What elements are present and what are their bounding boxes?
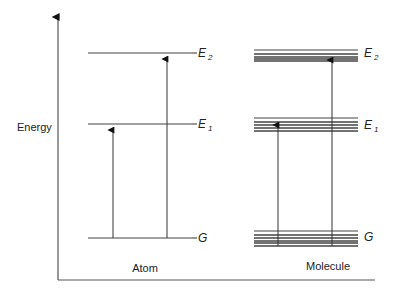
level-label: E2 [198, 46, 213, 62]
energy-level-diagram: Energy E2E1G Atom E2E1G Molecule [0, 0, 394, 299]
molecule-level-g: G [254, 230, 373, 246]
atom-level-e1: E1 [88, 117, 212, 133]
energy-axis-label: Energy [17, 121, 52, 133]
molecule-column: E2E1G [254, 46, 379, 246]
atom-label: Atom [132, 262, 158, 274]
atom-level-e2: E2 [88, 46, 213, 62]
level-label: E1 [198, 117, 212, 133]
atom-level-g: G [88, 231, 207, 245]
level-label: G [364, 230, 373, 244]
level-label: E1 [364, 118, 378, 134]
atom-column: E2E1G [88, 46, 213, 245]
molecule-label: Molecule [306, 260, 350, 272]
level-label: G [198, 231, 207, 245]
molecule-level-e1: E1 [254, 118, 378, 134]
molecule-level-e2: E2 [254, 46, 379, 62]
level-label: E2 [364, 46, 379, 62]
